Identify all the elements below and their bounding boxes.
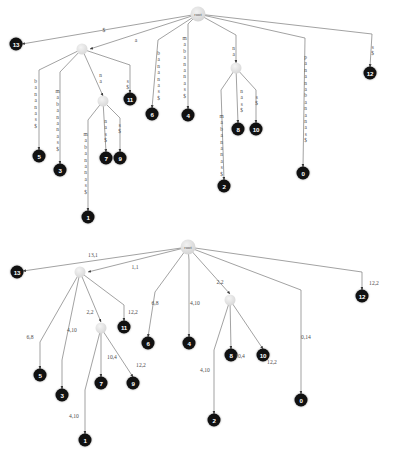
edge-label: 2,2: [87, 309, 94, 315]
edge-label: 6,8: [27, 334, 34, 340]
edge-label: na: [97, 72, 102, 85]
leaf-node: 10: [250, 123, 263, 136]
edge-label: bananas$: [32, 78, 37, 129]
tree-edge: [148, 292, 155, 337]
leaf-node: 6: [146, 108, 159, 121]
edge-label: 12,2: [369, 280, 379, 286]
leaf-node: 1: [82, 211, 95, 224]
leaf-node: 7: [100, 152, 113, 165]
edge-label: nas$: [238, 88, 243, 114]
leaf-node: 8: [232, 123, 245, 136]
edge-label: 0,14: [301, 334, 311, 340]
edge-label: mabananas$: [82, 131, 87, 195]
leaf-node: 5: [33, 150, 46, 163]
leaf-node: 4: [183, 337, 196, 350]
edge-label: nas$: [102, 118, 107, 144]
leaf-node: 0: [297, 167, 310, 180]
tree-edge: [230, 300, 263, 349]
edge-label: 6,8: [152, 300, 159, 306]
edge-label: mabananas$: [54, 88, 59, 152]
edge-label: 4,10: [190, 300, 200, 306]
edge-label: 10,4: [107, 354, 117, 360]
leaf-node: 5: [34, 369, 47, 382]
tree-edge: [198, 14, 305, 38]
leaf-node: 9: [114, 152, 127, 165]
leaf-node: 1: [79, 434, 92, 447]
edge-label: 13,1: [88, 252, 98, 258]
leaf-node: 12: [364, 67, 377, 80]
tree-edge: [198, 14, 372, 34]
figure-canvas: root135317911642810012$abananas$mabanana…: [0, 0, 394, 461]
leaf-node: 13: [11, 266, 24, 279]
tree-edge: [214, 300, 230, 350]
edge-label: a: [135, 37, 137, 43]
leaf-node: 11: [124, 93, 137, 106]
leaf-node: 2: [218, 180, 231, 193]
tree-edge: [188, 247, 362, 272]
root-node: root: [181, 240, 196, 255]
edge-label: s$: [253, 94, 258, 107]
internal-node: [231, 63, 242, 74]
leaf-node: 9: [127, 377, 140, 390]
leaf-node: 2: [208, 414, 221, 427]
leaf-node: 11: [118, 321, 131, 334]
internal-node: [225, 295, 236, 306]
tree-edge: [101, 328, 133, 377]
tree-edge: [22, 14, 198, 44]
tree-edge: [188, 247, 301, 290]
tree-edge: [39, 49, 82, 70]
edge-label: s$: [369, 44, 374, 57]
edge-label: 4,10: [200, 367, 210, 373]
internal-node: [75, 267, 86, 278]
edge-label: 1,1: [132, 264, 139, 270]
edge-label: 2,2: [217, 279, 224, 285]
edge-label: pananabananas$: [302, 54, 307, 144]
tree-edge: [62, 272, 80, 360]
edge-label: 4,10: [67, 327, 77, 333]
leaf-node: 3: [56, 389, 69, 402]
internal-node: [96, 323, 107, 334]
edge-label: s$: [124, 78, 129, 91]
leaf-node: 0: [295, 394, 308, 407]
leaf-node: 7: [95, 377, 108, 390]
edge-label: 10,4: [235, 353, 245, 359]
root-node: root: [191, 7, 206, 22]
edge-label: mabananas$: [218, 113, 223, 177]
edge-label: s$: [116, 122, 121, 135]
tree-edge: [82, 49, 130, 65]
leaf-node: 13: [10, 38, 23, 51]
tree-edge: [188, 247, 230, 294]
edge-label: mabananas$: [181, 35, 186, 99]
tree-edge: [230, 300, 231, 349]
leaf-node: 6: [142, 337, 155, 350]
edge-label: $: [103, 27, 106, 33]
edge-label: 12,2: [128, 309, 138, 315]
internal-node: [77, 44, 88, 55]
internal-node: [98, 96, 109, 107]
edge-label: bananas$: [155, 50, 160, 101]
edge-label: na: [230, 45, 235, 58]
edge-label: 12,2: [267, 359, 277, 365]
leaf-node: 4: [182, 109, 195, 122]
edge-label: 12,2: [136, 362, 146, 368]
edge-label: 4,10: [69, 413, 79, 419]
leaf-node: 3: [54, 164, 67, 177]
leaf-node: 12: [356, 290, 369, 303]
